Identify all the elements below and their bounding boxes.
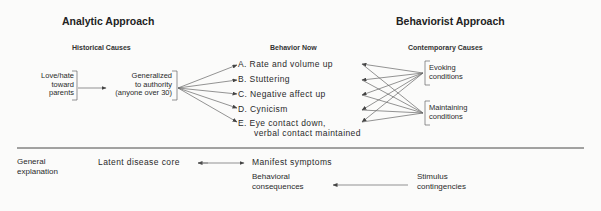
origin-bracket [72, 71, 77, 100]
evoking-bracket [425, 61, 430, 85]
maintaining-bracket [425, 101, 430, 125]
generalized-bracket [172, 71, 177, 100]
diagram-connectors [0, 0, 601, 211]
